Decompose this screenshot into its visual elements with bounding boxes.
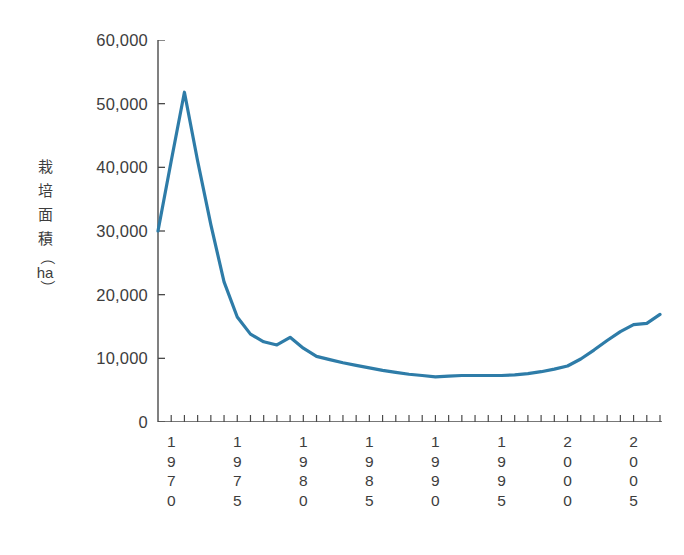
y-axis-title-paren-open: （: [39, 243, 52, 273]
x-axis-tick-label: 1990: [426, 432, 444, 510]
data-line-series: [156, 40, 668, 422]
x-axis-tick-label: 1970: [162, 432, 180, 510]
y-axis-title-char-1: 栽: [30, 155, 60, 179]
y-axis-tick-label: 30,000: [58, 223, 148, 240]
x-axis-tick-label: 2005: [625, 432, 643, 510]
y-axis-tick-label: 20,000: [58, 287, 148, 304]
x-axis-tick-label: 1985: [360, 432, 378, 510]
y-axis-tick-labels: 010,00020,00030,00040,00050,00060,000: [58, 0, 148, 555]
plot-area: [156, 40, 668, 422]
y-axis-title-paren-close: ）: [39, 273, 52, 303]
y-axis-tick-label: 50,000: [58, 96, 148, 113]
x-axis-tick-label: 1980: [294, 432, 312, 510]
y-axis-title: 栽 培 面 積 （ ha ）: [30, 155, 60, 294]
x-axis-tick-labels: 19701975198019851990199520002005: [156, 432, 676, 542]
x-axis-tick-label: 1995: [492, 432, 510, 510]
y-axis-tick-label: 60,000: [58, 32, 148, 49]
chart-figure: 栽 培 面 積 （ ha ） 010,00020,00030,00040,000…: [0, 0, 684, 555]
x-axis-tick-label: 1975: [228, 432, 246, 510]
y-axis-tick-label: 40,000: [58, 159, 148, 176]
x-axis-tick-label: 2000: [559, 432, 577, 510]
y-axis-tick-label: 0: [58, 414, 148, 431]
y-axis-tick-label: 10,000: [58, 350, 148, 367]
y-axis-title-char-3: 面: [30, 203, 60, 227]
y-axis-title-char-2: 培: [30, 179, 60, 203]
